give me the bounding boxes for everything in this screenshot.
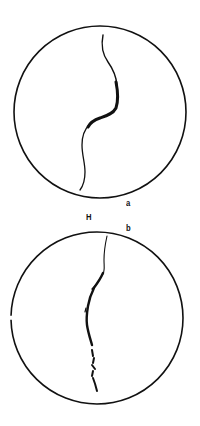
crack-b-middle [87,273,103,345]
panel-b [11,232,183,404]
crack-a-lower [80,125,89,190]
panel-label-a: a [126,199,130,208]
crack-a-upper [102,35,117,85]
figure-canvas [0,0,200,426]
panel-a [14,26,186,198]
crack-a-middle [88,82,118,127]
specimen-circle-a [14,26,186,198]
crack-b-segments [92,350,97,391]
specimen-circle-b [11,232,183,404]
crack-b-upper [103,236,107,274]
center-label-h: H [86,213,92,222]
panel-label-b: b [126,224,131,233]
